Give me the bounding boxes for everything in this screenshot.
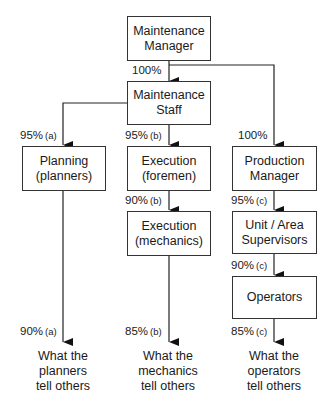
percent-note: (a) bbox=[45, 326, 57, 337]
output-planners: What the planners tell others bbox=[8, 349, 118, 394]
label-staff-to-planning: 95%(a) bbox=[20, 129, 57, 141]
percent-note: (c) bbox=[256, 326, 267, 337]
percent-note: (c) bbox=[256, 260, 267, 271]
percent-note: (b) bbox=[150, 130, 162, 141]
label-planners-out: 90%(a) bbox=[20, 325, 57, 337]
box-operators: Operators bbox=[232, 276, 317, 319]
percent-value: 100% bbox=[132, 64, 161, 76]
label-mm-to-production: 100% bbox=[238, 129, 267, 141]
percent-note: (b) bbox=[150, 195, 162, 206]
box-label: Execution (foremen) bbox=[142, 154, 197, 184]
percent-value: 95% bbox=[20, 129, 43, 141]
connector-lines bbox=[0, 0, 336, 409]
label-operators-out: 85%(c) bbox=[231, 325, 267, 337]
percent-note: (c) bbox=[256, 195, 267, 206]
box-label: Operators bbox=[247, 290, 303, 305]
box-label: Maintenance Staff bbox=[133, 88, 205, 118]
percent-value: 90% bbox=[20, 325, 43, 337]
box-label: Planning (planners) bbox=[36, 154, 92, 184]
box-production-manager: Production Manager bbox=[232, 146, 317, 191]
box-planning: Planning (planners) bbox=[22, 146, 106, 191]
label-mm-to-staff: 100% bbox=[132, 64, 161, 76]
percent-value: 100% bbox=[238, 129, 267, 141]
label-foremen-to-mechanics: 90%(b) bbox=[125, 194, 162, 206]
label-mechanics-out: 85%(b) bbox=[125, 325, 162, 337]
label-staff-to-foremen: 95%(b) bbox=[125, 129, 162, 141]
output-operators: What the operators tell others bbox=[219, 349, 329, 394]
box-maintenance-manager: Maintenance Manager bbox=[127, 16, 211, 61]
label-production-to-supervisors: 95%(c) bbox=[231, 194, 267, 206]
output-mechanics: What the mechanics tell others bbox=[113, 349, 223, 394]
percent-value: 90% bbox=[231, 259, 254, 271]
percent-value: 85% bbox=[125, 325, 148, 337]
percent-value: 95% bbox=[125, 129, 148, 141]
percent-value: 95% bbox=[231, 194, 254, 206]
box-maintenance-staff: Maintenance Staff bbox=[127, 81, 211, 125]
box-execution-mechanics: Execution (mechanics) bbox=[127, 211, 211, 256]
box-label: Execution (mechanics) bbox=[135, 219, 203, 249]
percent-note: (b) bbox=[150, 326, 162, 337]
label-supervisors-to-operators: 90%(c) bbox=[231, 259, 267, 271]
box-unit-supervisors: Unit / Area Supervisors bbox=[232, 211, 317, 254]
percent-value: 90% bbox=[125, 194, 148, 206]
box-label: Unit / Area Supervisors bbox=[242, 218, 308, 248]
box-label: Production Manager bbox=[245, 154, 305, 184]
percent-note: (a) bbox=[45, 130, 57, 141]
percent-value: 85% bbox=[231, 325, 254, 337]
box-execution-foremen: Execution (foremen) bbox=[127, 146, 211, 191]
box-label: Maintenance Manager bbox=[133, 24, 205, 54]
